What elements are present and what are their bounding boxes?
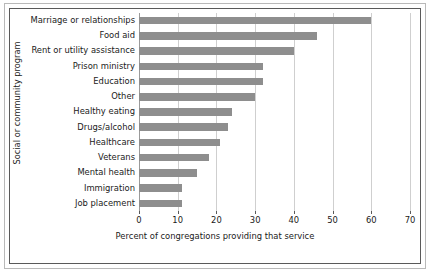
x-axis-tick-label: 20 <box>211 215 222 225</box>
bar <box>139 200 182 208</box>
bar <box>139 78 263 86</box>
bar <box>139 93 255 101</box>
x-tick-mark-50 <box>333 211 334 214</box>
chart-figure: Social or community program Marriage or … <box>0 0 430 273</box>
bar-row: Job placement <box>139 196 410 211</box>
x-tick-mark-60 <box>371 211 372 214</box>
x-tick-mark-70 <box>410 211 411 214</box>
y-axis-tick-label: Veterans <box>98 150 135 165</box>
y-axis-tick-label: Healthy eating <box>73 104 135 119</box>
bar-row: Other <box>139 89 410 104</box>
bar <box>139 63 263 71</box>
bar <box>139 123 228 131</box>
bar-row: Healthcare <box>139 135 410 150</box>
y-axis-tick-label: Education <box>93 74 135 89</box>
y-axis-tick-label: Marriage or relationships <box>30 13 135 28</box>
x-axis-tick-label: 30 <box>250 215 261 225</box>
bar-row: Drugs/alcohol <box>139 120 410 135</box>
y-axis-tick-label: Immigration <box>84 181 135 196</box>
bar <box>139 184 182 192</box>
bar-row: Immigration <box>139 181 410 196</box>
x-tick-mark-20 <box>216 211 217 214</box>
x-axis-tick-label: 70 <box>405 215 416 225</box>
bar-series: Marriage or relationshipsFood aidRent or… <box>139 13 410 211</box>
y-axis-tick-label: Other <box>111 89 135 104</box>
y-axis-tick-label: Food aid <box>99 28 135 43</box>
bar <box>139 108 232 116</box>
x-tick-mark-10 <box>178 211 179 214</box>
x-axis-tick-label: 50 <box>327 215 338 225</box>
bar-row: Healthy eating <box>139 104 410 119</box>
bar-row: Education <box>139 74 410 89</box>
y-axis-tick-label: Drugs/alcohol <box>77 120 135 135</box>
bar <box>139 154 209 162</box>
y-axis-tick-label: Job placement <box>75 196 135 211</box>
y-axis-tick-label: Prison ministry <box>73 59 135 74</box>
bar <box>139 32 317 40</box>
bar-row: Veterans <box>139 150 410 165</box>
y-axis-tick-label: Rent or utility assistance <box>31 43 135 58</box>
plot-axes: Marriage or relationshipsFood aidRent or… <box>139 13 410 211</box>
bar-row: Food aid <box>139 28 410 43</box>
y-axis-tick-label: Mental health <box>77 165 135 180</box>
x-tick-mark-40 <box>294 211 295 214</box>
bar <box>139 169 197 177</box>
x-axis-tick-label: 60 <box>366 215 377 225</box>
bar <box>139 139 220 147</box>
x-tick-mark-30 <box>255 211 256 214</box>
y-axis-tick-label: Healthcare <box>89 135 135 150</box>
x-axis-title: Percent of congregations providing that … <box>9 231 421 241</box>
bar <box>139 47 294 55</box>
x-axis-tick-label: 0 <box>136 215 141 225</box>
x-tick-mark-0 <box>139 211 140 214</box>
x-axis-tick-label: 40 <box>289 215 300 225</box>
bar-row: Marriage or relationships <box>139 13 410 28</box>
bar-row: Prison ministry <box>139 59 410 74</box>
y-axis-title: Social or community program <box>10 0 24 206</box>
bar <box>139 17 371 25</box>
x-axis-tick-label: 10 <box>172 215 183 225</box>
bar-row: Rent or utility assistance <box>139 43 410 58</box>
bar-row: Mental health <box>139 165 410 180</box>
